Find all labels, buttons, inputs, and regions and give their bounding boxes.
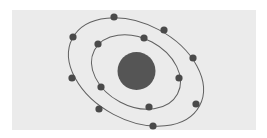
inner-electron bbox=[97, 83, 104, 90]
outer-electron bbox=[149, 122, 156, 129]
inner-electron bbox=[140, 34, 147, 41]
outer-electron bbox=[189, 54, 196, 61]
inner-electron bbox=[175, 74, 182, 81]
nucleus bbox=[118, 52, 156, 90]
outer-electron bbox=[110, 13, 117, 20]
inner-electron bbox=[94, 40, 101, 47]
outer-electron bbox=[95, 105, 102, 112]
inner-electron bbox=[145, 103, 152, 110]
outer-electron bbox=[160, 26, 167, 33]
atom-diagram bbox=[0, 0, 267, 138]
outer-electron bbox=[192, 100, 199, 107]
outer-electron bbox=[68, 74, 75, 81]
outer-electron bbox=[69, 33, 76, 40]
